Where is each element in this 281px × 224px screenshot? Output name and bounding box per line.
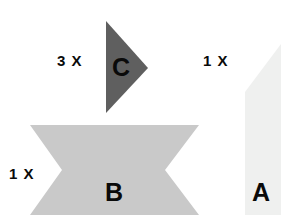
figure-canvas: C B A 3 X 1 X 1 X xyxy=(0,0,281,224)
shape-b-letter: B xyxy=(105,180,123,205)
shape-a-letter: A xyxy=(252,180,270,205)
shape-c-letter: C xyxy=(112,55,130,80)
shape-a-multiplier-label: 1 X xyxy=(203,53,229,68)
shapes-svg xyxy=(0,0,281,224)
shape-b-multiplier-label: 1 X xyxy=(9,166,35,181)
shape-c-multiplier-label: 3 X xyxy=(57,53,83,68)
